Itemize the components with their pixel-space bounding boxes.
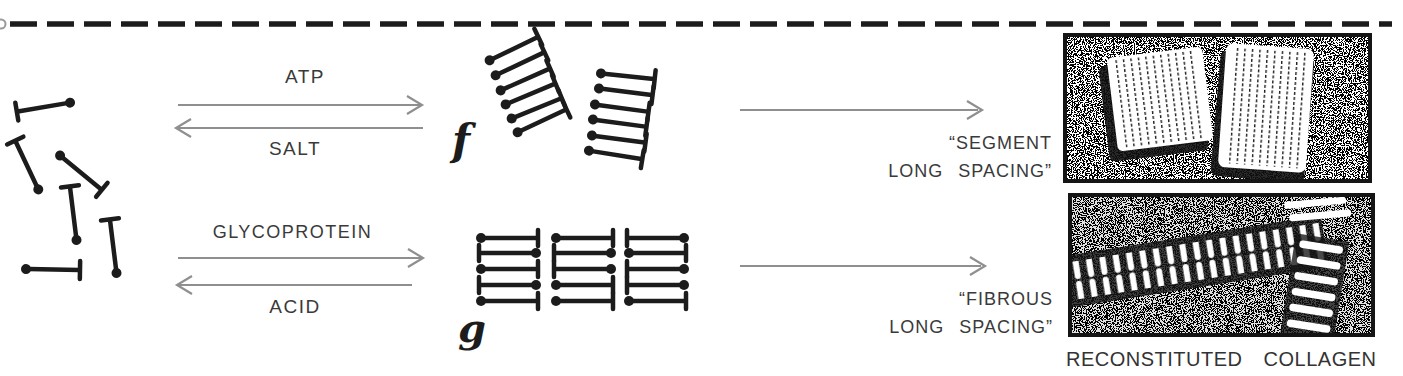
monomer-icon: [587, 110, 648, 136]
monomer-icon: [479, 277, 541, 293]
arrow-salt-reverse: [176, 119, 423, 137]
punch-hole-ring: [0, 20, 6, 29]
monomer-icon: [476, 261, 538, 277]
label-salt: SALT: [230, 138, 360, 160]
boundary-dashed-line: [0, 20, 1392, 29]
micrograph-fibrous-long-spacing: [1058, 195, 1373, 342]
monomer-icon: [595, 64, 656, 88]
tropocollagen-monomer-pool: [7, 93, 126, 279]
caption-reconstituted-collagen: RECONSTITUTED COLLAGEN: [1066, 348, 1375, 371]
monomer-icon: [627, 277, 689, 293]
monomer-icon: [624, 293, 686, 309]
monomer-icon: [586, 126, 647, 152]
monomer-icon: [476, 230, 538, 246]
label-fibrous-long-spacing: “FIBROUS LONG SPACING”: [889, 285, 1053, 341]
arrow-glycoprotein-forward: [178, 249, 423, 267]
aggregate-g-antiparallel-array: [476, 230, 689, 309]
micrograph-segment-long-spacing: [1065, 35, 1370, 184]
monomer-icon: [551, 277, 613, 293]
monomer-icon: [551, 293, 613, 309]
monomer-icon: [479, 245, 541, 261]
reaction-arrows: [176, 96, 985, 294]
diagram-artwork: [0, 0, 1403, 376]
label-segment-line2: LONG SPACING”: [888, 157, 1052, 185]
arrow-atp-forward: [178, 96, 422, 114]
monomer-icon: [627, 261, 689, 277]
monomer-icon: [624, 245, 686, 261]
monomer-icon: [498, 75, 559, 114]
arrow-to-segment-long-spacing: [740, 101, 982, 119]
monomer-icon: [481, 29, 542, 71]
monomer-icon: [487, 44, 548, 85]
monomer-icon: [554, 261, 616, 277]
collagen-reconstitution-figure: ATP SALT GLYCOPROTEIN ACID f g “SEGMENT …: [0, 0, 1403, 376]
label-fibrous-line1: “FIBROUS: [889, 285, 1053, 313]
monomer-icon: [554, 245, 616, 261]
monomer-icon: [492, 60, 553, 100]
monomer-icon: [21, 260, 80, 279]
label-acid: ACID: [230, 296, 360, 318]
label-aggregate-g: g: [458, 304, 486, 351]
monomer-icon: [551, 230, 613, 246]
monomer-icon: [589, 95, 650, 121]
arrow-acid-reverse: [177, 276, 412, 294]
sls-crystallite: [1218, 43, 1314, 173]
monomer-icon: [583, 141, 644, 168]
label-fibrous-line2: LONG SPACING”: [889, 313, 1053, 341]
monomer-icon: [101, 218, 126, 279]
label-segment-long-spacing: “SEGMENT LONG SPACING”: [888, 129, 1052, 185]
label-atp: ATP: [240, 66, 370, 88]
label-segment-line1: “SEGMENT: [888, 129, 1052, 157]
arrow-to-fibrous-long-spacing: [740, 257, 985, 275]
monomer-icon: [593, 79, 654, 104]
monomer-icon: [627, 230, 689, 246]
monomer-icon: [7, 137, 48, 198]
monomer-icon: [15, 93, 76, 120]
monomer-icon: [51, 145, 108, 196]
aggregate-f-parallel-bundles: [481, 29, 655, 168]
sls-crystallite: [1107, 47, 1214, 152]
label-glycoprotein: GLYCOPROTEIN: [205, 222, 380, 243]
label-aggregate-f: f: [452, 116, 470, 165]
monomer-icon: [61, 185, 86, 246]
